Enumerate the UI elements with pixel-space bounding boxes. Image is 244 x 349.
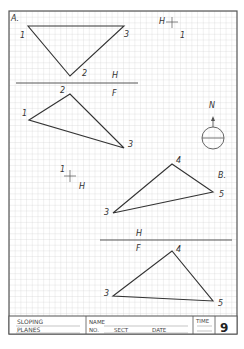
title-sloping: SLOPING bbox=[17, 318, 44, 325]
worksheet-sheet: A. B. 1 2 3 H F 2 1 3 H 1 1 H N bbox=[0, 0, 244, 349]
section-a-label: A. bbox=[10, 14, 19, 23]
cross-label-1: 1 bbox=[180, 31, 185, 40]
point-label-4: 4 bbox=[176, 156, 181, 165]
plane-label-f-b: F bbox=[136, 244, 141, 253]
point-label-3-front: 3 bbox=[128, 140, 133, 149]
point-label-2: 2 bbox=[82, 69, 87, 78]
title-planes: PLANES bbox=[17, 326, 40, 333]
date-label: DATE bbox=[152, 327, 167, 333]
point-label-2-front: 2 bbox=[60, 86, 65, 95]
point-label-5-front: 5 bbox=[218, 299, 223, 308]
sheet-number: 9 bbox=[220, 321, 228, 335]
point-label-4-front: 4 bbox=[176, 245, 181, 254]
title-block: SLOPING PLANES NAME NO. SECT DATE TIME 9 bbox=[9, 316, 237, 335]
name-label: NAME bbox=[89, 319, 106, 325]
point-label-1-front: 1 bbox=[22, 109, 27, 118]
sect-label: SECT bbox=[114, 327, 129, 333]
section-b-label: B. bbox=[218, 171, 226, 180]
plane-label-h: H bbox=[112, 71, 118, 80]
point-label-3: 3 bbox=[124, 30, 129, 39]
plane-label-h-b: H bbox=[136, 229, 142, 238]
point-label-3-front-b: 3 bbox=[104, 289, 109, 298]
time-label: TIME bbox=[195, 318, 210, 324]
cross-mid-label-1: 1 bbox=[60, 165, 65, 174]
point-label-3-b: 3 bbox=[104, 208, 109, 217]
grid-area bbox=[9, 11, 237, 316]
point-label-5: 5 bbox=[219, 190, 224, 199]
compass-north-label: N bbox=[209, 101, 215, 110]
plane-label-f: F bbox=[112, 89, 117, 98]
cross-mid-label-h: H bbox=[79, 182, 85, 191]
point-label-1: 1 bbox=[20, 31, 25, 40]
no-label: NO. bbox=[89, 327, 99, 333]
cross-label-h: H bbox=[159, 17, 165, 26]
